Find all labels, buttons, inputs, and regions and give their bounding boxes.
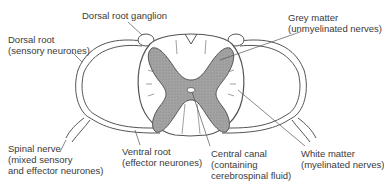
label-dorsal-root: Dorsal root (sensory neurones): [8, 34, 90, 56]
label-ventral-root: Ventral root (effector neurones): [122, 146, 202, 168]
label-spinal-nerve: Spinal nerve (mixed sensory and effector…: [8, 143, 103, 176]
label-dorsal-root-ganglion: Dorsal root ganglion: [82, 10, 167, 21]
central-canal: [187, 88, 195, 93]
label-grey-matter: Grey matter (unmyelinated nerves): [288, 12, 382, 34]
label-central-canal: Central canal (containing cerebrospinal …: [211, 148, 291, 181]
label-white-matter: White matter (myelinated nerves): [301, 148, 384, 170]
